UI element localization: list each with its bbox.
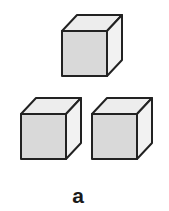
cube-front-face [62, 31, 107, 76]
cube-front-face [92, 114, 137, 159]
cube-front-face [21, 114, 66, 159]
figure-label: a [0, 184, 156, 208]
top-cube [62, 15, 122, 76]
cube-figure [0, 0, 169, 211]
bottom-right-cube [92, 98, 152, 159]
bottom-left-cube [21, 98, 81, 159]
